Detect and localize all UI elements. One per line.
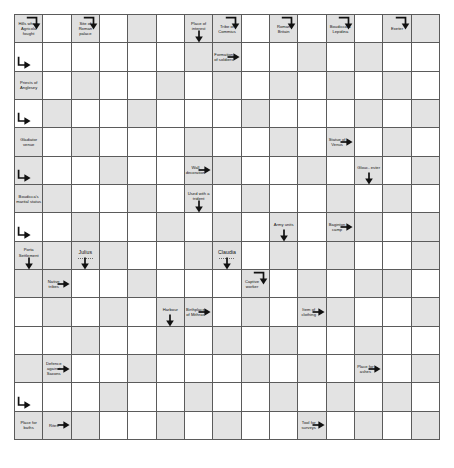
answer-cell[interactable] [298, 157, 326, 185]
answer-cell[interactable] [298, 72, 326, 100]
answer-cell[interactable] [72, 100, 100, 128]
clue-cell-item-of-clothing[interactable]: Item of clothing [298, 298, 326, 326]
answer-cell[interactable] [72, 383, 100, 411]
answer-cell[interactable] [100, 157, 128, 185]
clue-cell-hills-where-agricola-fought[interactable]: Hills where Agricola fought [15, 15, 43, 43]
answer-cell[interactable] [270, 355, 298, 383]
answer-cell[interactable] [43, 72, 71, 100]
answer-cell[interactable] [72, 43, 100, 71]
clue-cell-porta-settlement[interactable]: Porta Settlement [15, 242, 43, 270]
answer-cell[interactable] [128, 412, 156, 440]
answer-cell[interactable] [213, 383, 241, 411]
answer-cell[interactable] [100, 15, 128, 43]
answer-cell[interactable] [213, 100, 241, 128]
answer-cell[interactable] [327, 72, 355, 100]
answer-cell[interactable] [412, 157, 440, 185]
answer-cell[interactable] [213, 185, 241, 213]
answer-cell[interactable] [242, 355, 270, 383]
answer-cell[interactable] [157, 100, 185, 128]
answer-cell[interactable] [128, 15, 156, 43]
answer-cell[interactable] [383, 383, 411, 411]
answer-cell[interactable] [327, 242, 355, 270]
clue-cell-gloucester[interactable]: Glouc- ester [355, 157, 383, 185]
answer-cell[interactable] [43, 15, 71, 43]
answer-cell[interactable] [242, 15, 270, 43]
answer-cell[interactable] [15, 157, 43, 185]
clue-cell-gladiator-venue[interactable]: Gladiator venue [15, 128, 43, 156]
answer-cell[interactable] [128, 213, 156, 241]
answer-cell[interactable] [43, 242, 71, 270]
answer-cell[interactable] [242, 100, 270, 128]
answer-cell[interactable] [383, 270, 411, 298]
answer-cell[interactable] [43, 43, 71, 71]
answer-cell[interactable] [213, 355, 241, 383]
answer-cell[interactable] [327, 100, 355, 128]
answer-cell[interactable] [185, 100, 213, 128]
clue-cell-statue-of-venus[interactable]: Statue of Venus [327, 128, 355, 156]
answer-cell[interactable] [270, 43, 298, 71]
answer-cell[interactable] [327, 298, 355, 326]
clue-cell-army-units[interactable]: Army units [270, 213, 298, 241]
answer-cell[interactable] [43, 185, 71, 213]
answer-cell[interactable] [157, 270, 185, 298]
answer-cell[interactable] [412, 43, 440, 71]
clue-cell-exeter[interactable]: Exeter [383, 15, 411, 43]
answer-cell[interactable] [100, 43, 128, 71]
clue-cell-birthplace-of-mithras[interactable]: Birthplace of Mithras [185, 298, 213, 326]
answer-cell[interactable] [355, 298, 383, 326]
crossword-grid[interactable]: Hills where Agricola foughtSite of Roman… [14, 14, 440, 440]
answer-cell[interactable] [355, 327, 383, 355]
answer-cell[interactable] [355, 383, 383, 411]
answer-cell[interactable] [242, 185, 270, 213]
answer-cell[interactable] [412, 355, 440, 383]
answer-cell[interactable] [157, 242, 185, 270]
answer-cell[interactable] [298, 15, 326, 43]
answer-cell[interactable] [128, 383, 156, 411]
answer-cell[interactable] [157, 43, 185, 71]
answer-cell[interactable] [383, 298, 411, 326]
answer-cell[interactable] [327, 185, 355, 213]
answer-cell[interactable] [128, 270, 156, 298]
answer-cell[interactable] [100, 100, 128, 128]
answer-cell[interactable] [15, 355, 43, 383]
answer-cell[interactable] [242, 383, 270, 411]
answer-cell[interactable] [185, 242, 213, 270]
clue-cell-roman-britain[interactable]: Roman Britain [270, 15, 298, 43]
answer-cell[interactable] [128, 327, 156, 355]
answer-cell[interactable] [72, 355, 100, 383]
answer-cell[interactable] [270, 100, 298, 128]
answer-cell[interactable] [72, 128, 100, 156]
answer-cell[interactable] [412, 412, 440, 440]
answer-cell[interactable] [412, 327, 440, 355]
clue-cell-tribe-of-commius[interactable]: Tribe of Commius [213, 15, 241, 43]
clue-cell-site-of-roman-palace[interactable]: Site of Roman palace [72, 15, 100, 43]
answer-cell[interactable] [270, 128, 298, 156]
answer-cell[interactable] [383, 43, 411, 71]
answer-cell[interactable] [270, 383, 298, 411]
answer-cell[interactable] [412, 15, 440, 43]
answer-cell[interactable] [383, 412, 411, 440]
answer-cell[interactable] [355, 213, 383, 241]
answer-cell[interactable] [327, 327, 355, 355]
answer-cell[interactable] [270, 327, 298, 355]
clue-cell-place-of-interest[interactable]: Place of interest [185, 15, 213, 43]
answer-cell[interactable] [128, 72, 156, 100]
answer-cell[interactable] [72, 213, 100, 241]
answer-cell[interactable] [15, 383, 43, 411]
answer-cell[interactable] [15, 298, 43, 326]
answer-cell[interactable] [157, 157, 185, 185]
answer-cell[interactable] [213, 157, 241, 185]
answer-cell[interactable] [185, 43, 213, 71]
answer-cell[interactable] [213, 72, 241, 100]
answer-cell[interactable] [355, 412, 383, 440]
answer-cell[interactable] [383, 72, 411, 100]
clue-cell-rites[interactable]: Rites [43, 412, 71, 440]
answer-cell[interactable] [383, 128, 411, 156]
answer-cell[interactable] [355, 72, 383, 100]
answer-cell[interactable] [213, 213, 241, 241]
answer-cell[interactable] [185, 128, 213, 156]
answer-cell[interactable] [72, 412, 100, 440]
answer-cell[interactable] [15, 43, 43, 71]
answer-cell[interactable] [327, 270, 355, 298]
answer-cell[interactable] [100, 355, 128, 383]
